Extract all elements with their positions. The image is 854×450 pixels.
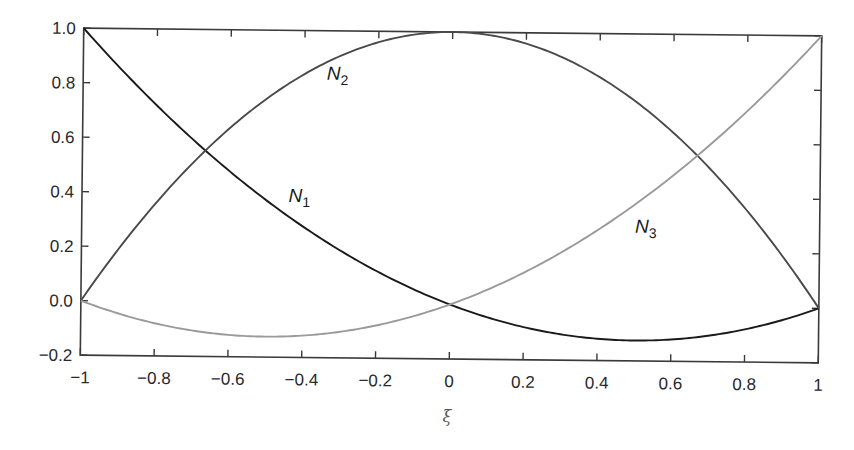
label-n1: N1	[288, 185, 310, 210]
y-axis-ticks: −0.20.00.20.40.60.81.0	[39, 19, 822, 373]
x-tick-label: −1	[70, 368, 90, 387]
label-n2: N2	[327, 63, 349, 88]
curve-n1	[81, 28, 822, 342]
x-tick-label: 0.4	[585, 373, 609, 392]
label-n3: N3	[635, 216, 657, 241]
x-axis-ticks: −1−0.8−0.6−0.4−0.200.20.40.60.81	[70, 28, 826, 395]
y-tick-label: 0.2	[50, 237, 74, 256]
y-tick-label: −0.2	[39, 346, 73, 365]
plot-frame	[80, 28, 821, 363]
curves	[81, 28, 822, 342]
x-axis-label: ξ	[443, 407, 453, 426]
y-tick-label: 1.0	[52, 19, 76, 38]
curve-n3	[81, 28, 822, 342]
plot-group: −1−0.8−0.6−0.4−0.200.20.40.60.81 −0.20.0…	[38, 19, 826, 395]
curve-labels: N2N1N3	[288, 62, 658, 241]
y-tick-label: 0.0	[49, 291, 73, 310]
chart: −1−0.8−0.6−0.4−0.200.20.40.60.81 −0.20.0…	[0, 0, 854, 450]
curve-n2	[81, 28, 822, 308]
x-tick-label: 0.2	[511, 373, 535, 392]
x-tick-label: 0.6	[659, 374, 683, 393]
y-tick-label: 0.4	[50, 182, 74, 201]
x-tick-label: −0.8	[137, 369, 171, 388]
x-tick-label: −0.4	[285, 370, 319, 389]
y-tick-label: 0.6	[51, 128, 75, 147]
x-tick-label: 0	[444, 372, 454, 391]
x-tick-label: −0.6	[211, 369, 245, 388]
y-tick-label: 0.8	[51, 73, 75, 92]
x-tick-label: 0.8	[732, 375, 756, 394]
x-tick-label: −0.2	[358, 371, 392, 390]
x-tick-label: 1	[813, 376, 823, 395]
